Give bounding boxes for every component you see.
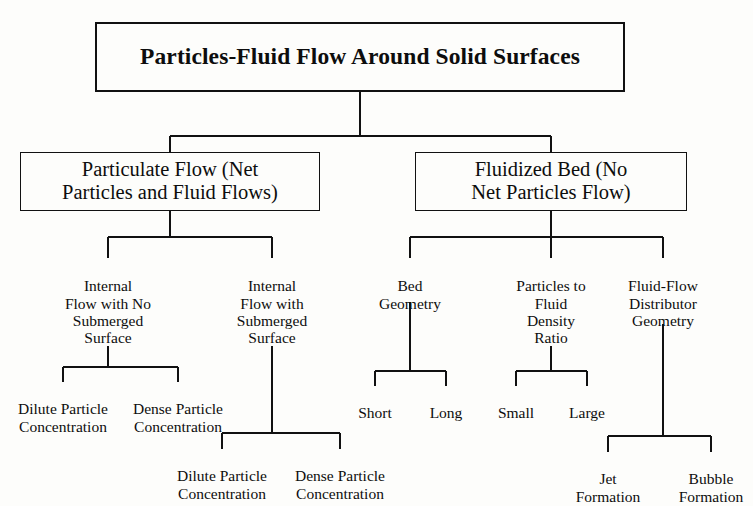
leaf-label-small: Small	[498, 404, 534, 421]
leaf-label-long: Long	[430, 404, 463, 421]
factor-bed-geometry: Bed Geometry	[352, 260, 468, 312]
root-title-box: Particles-Fluid Flow Around Solid Surfac…	[95, 22, 625, 92]
factor-fluid-flow-distributor-geometry: Fluid-Flow Distributor Geometry	[608, 260, 718, 329]
factor-internal-flow-submerged-surface: Internal Flow with Submerged Surface	[202, 260, 342, 347]
leaf-dense-particle-concentration-lower: Dense Particle Concentration	[280, 450, 400, 502]
branch-box-particulate-flow: Particulate Flow (Net Particles and Flui…	[20, 152, 320, 211]
leaf-dilute-particle-concentration-lower: Dilute Particle Concentration	[162, 450, 282, 502]
leaf-dilute-particle-concentration-upper: Dilute Particle Concentration	[3, 383, 123, 435]
leaf-dense-particle-concentration-upper: Dense Particle Concentration	[118, 383, 238, 435]
leaf-label-dilute-upper: Dilute Particle Concentration	[18, 400, 108, 434]
leaf-large-density: Large	[552, 387, 622, 422]
leaf-label-large: Large	[569, 404, 605, 421]
branch-box-fluidized-bed: Fluidized Bed (No Net Particles Flow)	[415, 152, 687, 211]
leaf-small-density: Small	[481, 387, 551, 422]
leaf-long: Long	[411, 387, 481, 422]
leaf-short: Short	[340, 387, 410, 422]
leaf-jet-formation: Jet Formation	[556, 453, 660, 505]
factor-particles-to-fluid-density-ratio: Particles to Fluid Density Ratio	[489, 260, 613, 347]
factor-label-distributor-geometry: Fluid-Flow Distributor Geometry	[628, 277, 698, 329]
factor-label-bed-geometry: Bed Geometry	[379, 277, 441, 311]
factor-label-internal-no-submerged: Internal Flow with No Submerged Surface	[65, 277, 151, 346]
branch-label-particulate-flow: Particulate Flow (Net Particles and Flui…	[62, 158, 278, 204]
root-title-text: Particles-Fluid Flow Around Solid Surfac…	[140, 43, 580, 69]
leaf-label-bubble-formation: Bubble Formation	[679, 470, 744, 504]
branch-label-fluidized-bed: Fluidized Bed (No Net Particles Flow)	[471, 158, 630, 204]
factor-label-internal-submerged: Internal Flow with Submerged Surface	[237, 277, 307, 346]
leaf-label-dense-lower: Dense Particle Concentration	[295, 467, 385, 501]
classification-diagram: Particles-Fluid Flow Around Solid Surfac…	[0, 0, 753, 506]
factor-internal-flow-no-submerged-surface: Internal Flow with No Submerged Surface	[28, 260, 188, 347]
leaf-label-dilute-lower: Dilute Particle Concentration	[177, 467, 267, 501]
leaf-label-short: Short	[358, 404, 392, 421]
factor-label-density-ratio: Particles to Fluid Density Ratio	[516, 277, 585, 346]
leaf-bubble-formation: Bubble Formation	[659, 453, 753, 505]
leaf-label-dense-upper: Dense Particle Concentration	[133, 400, 223, 434]
leaf-label-jet-formation: Jet Formation	[576, 470, 641, 504]
